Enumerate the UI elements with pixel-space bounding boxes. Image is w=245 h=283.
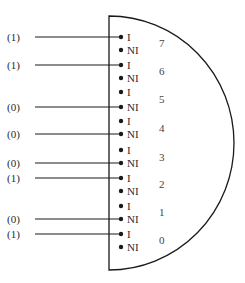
pin-label-ni: NI	[127, 241, 139, 253]
pin-label-ni: NI	[127, 128, 139, 140]
pin-label-i: I	[127, 228, 131, 240]
bit-number: 3	[159, 151, 165, 163]
pin-label-i: I	[127, 86, 131, 98]
input-value-label: (0)	[7, 101, 20, 114]
pin-dot-i	[119, 148, 123, 152]
pin-label-i: I	[127, 200, 131, 212]
pin-label-ni: NI	[127, 101, 139, 113]
bit-number: 0	[159, 234, 165, 246]
input-value-label: (0)	[7, 128, 20, 141]
input-value-label: (0)	[7, 213, 20, 226]
pin-dot-i	[119, 204, 123, 208]
bit-number: 4	[159, 122, 165, 134]
pin-label-i: I	[127, 172, 131, 184]
multiplexer-diagram: INI7(1)INI6(1)INI5(0)INI4(0)INI3(0)INI2(…	[0, 0, 245, 283]
input-value-label: (0)	[7, 157, 20, 170]
pin-dot-i	[119, 90, 123, 94]
pin-dot-ni	[119, 48, 123, 52]
pin-dot-ni	[119, 245, 123, 249]
pin-label-i: I	[127, 144, 131, 156]
pin-label-ni: NI	[127, 72, 139, 84]
pin-dot-ni	[119, 189, 123, 193]
pin-label-i: I	[127, 31, 131, 43]
pin-label-i: I	[127, 59, 131, 71]
pin-label-i: I	[127, 115, 131, 127]
pin-dot-i	[119, 119, 123, 123]
input-value-label: (1)	[7, 59, 20, 72]
pin-dot-ni	[119, 76, 123, 80]
pin-label-ni: NI	[127, 157, 139, 169]
pin-label-ni: NI	[127, 44, 139, 56]
input-value-label: (1)	[7, 228, 20, 241]
bit-number: 6	[159, 65, 165, 77]
bit-number: 1	[159, 206, 165, 218]
pin-label-ni: NI	[127, 185, 139, 197]
pin-label-ni: NI	[127, 213, 139, 225]
bit-number: 2	[159, 178, 165, 190]
input-value-label: (1)	[7, 31, 20, 44]
bit-number: 7	[159, 37, 165, 49]
input-value-label: (1)	[7, 172, 20, 185]
bit-number: 5	[159, 93, 165, 105]
pins-layer: INI7(1)INI6(1)INI5(0)INI4(0)INI3(0)INI2(…	[7, 31, 165, 253]
